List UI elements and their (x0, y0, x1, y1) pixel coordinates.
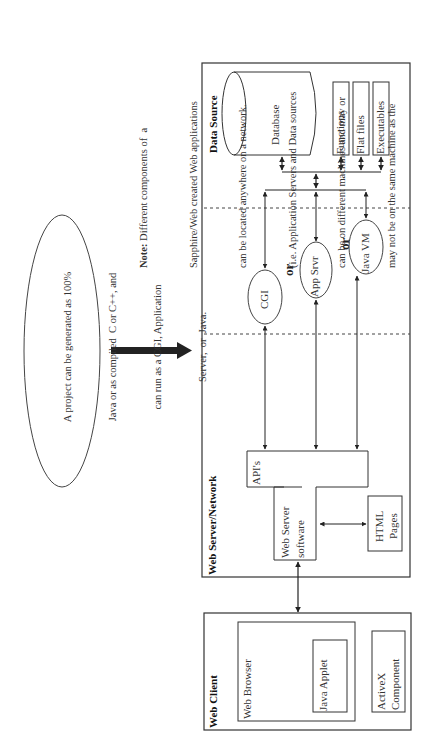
java-applet-label: Java Applet (318, 659, 329, 711)
functions-label: Functions (335, 111, 346, 154)
architecture-diagram: A project can be generated as 100% Java … (0, 0, 434, 756)
pages-label: Pages (388, 513, 399, 539)
note-line: Note: Different components of a (136, 92, 153, 268)
apis-box (247, 451, 368, 487)
component-label: Component (390, 659, 401, 710)
note-line: can be located anywhere on a network. (235, 92, 252, 268)
or-connector-2: or (338, 238, 351, 250)
project-note-line: A project can be generated as 100% (60, 262, 75, 432)
flat-files-label: Flat files (355, 115, 366, 154)
software-label: software (295, 520, 306, 558)
note-text: Different components of a (138, 128, 149, 244)
web-client-title: Web Client (208, 675, 219, 728)
executables-label: Executables (375, 101, 386, 154)
note-line: Sapphire/Web created Web applications (186, 92, 203, 268)
cgi-label: CGI (259, 290, 270, 309)
web-server-network-title: Web Server/Network (207, 476, 218, 575)
project-note-line: Server, or Java. (195, 262, 210, 432)
data-source-title: Data Source (208, 95, 219, 153)
or-connector-1: or (282, 264, 295, 276)
note-line: (i.e. Application Servers and Data sourc… (285, 92, 302, 268)
java-vm-label: Java VM (360, 233, 371, 273)
apis-label: API's (251, 461, 262, 485)
web-browser-label: Web Browser (242, 659, 253, 719)
activex-label: ActiveX (376, 673, 387, 710)
project-note-line: Java or as compiled C or C++, and (105, 262, 120, 432)
web-browser-box (238, 622, 355, 721)
note-label: Note: (138, 244, 149, 269)
database-label: Database (270, 105, 281, 145)
project-note-line: can run as a CGI, Application (150, 262, 165, 432)
project-note-text: A project can be generated as 100% Java … (30, 262, 240, 432)
app-srvr-label: App Srvr (309, 256, 320, 297)
web-server-label: Web Server (280, 507, 291, 558)
html-label: HTML (374, 511, 385, 542)
